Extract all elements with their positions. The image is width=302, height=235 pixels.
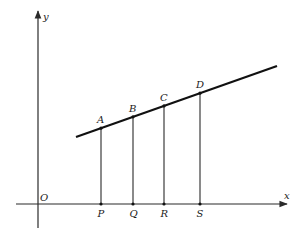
point-a	[99, 127, 102, 130]
label-c: C	[160, 92, 168, 103]
label-r: R	[160, 208, 169, 219]
point-q	[131, 202, 134, 205]
point-c	[162, 104, 165, 107]
x-axis-label: x	[284, 190, 290, 201]
origin-label: O	[40, 192, 48, 203]
point-d	[198, 92, 201, 95]
point-r	[162, 202, 165, 205]
y-axis-label: y	[42, 11, 49, 22]
label-s: S	[197, 208, 204, 219]
point-s	[198, 202, 201, 205]
label-a: A	[96, 114, 104, 125]
label-q: Q	[130, 208, 138, 219]
main-line	[76, 66, 277, 137]
label-p: P	[97, 208, 105, 219]
point-p	[99, 202, 102, 205]
point-b	[131, 115, 134, 118]
label-b: B	[128, 103, 136, 114]
label-d: D	[195, 79, 204, 90]
points-layer: APBQCRDS	[96, 79, 204, 219]
diagram: x y O APBQCRDS	[0, 0, 302, 235]
